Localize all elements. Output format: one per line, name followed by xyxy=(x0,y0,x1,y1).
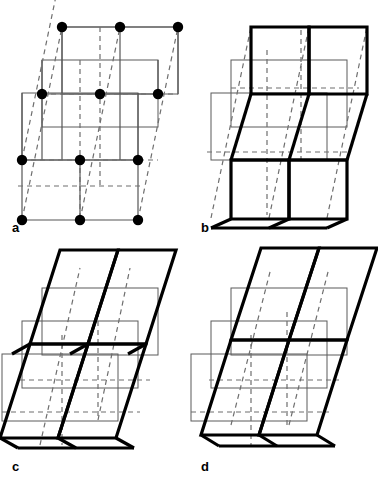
panel-label-a: a xyxy=(12,220,20,235)
lattice-node xyxy=(133,215,143,225)
lattice-node xyxy=(37,89,47,99)
figure-root: a xyxy=(0,0,378,479)
lattice-node xyxy=(17,155,27,165)
lattice-node xyxy=(75,155,85,165)
panel-label-d: d xyxy=(201,459,209,474)
panel-label-b: b xyxy=(201,220,209,235)
lattice-node xyxy=(133,155,143,165)
lattice-node xyxy=(153,89,163,99)
lattice-node xyxy=(115,22,125,32)
lattice-node xyxy=(173,22,183,32)
lattice-node xyxy=(95,89,105,99)
lattice-node xyxy=(75,215,85,225)
lattice-figure-svg: a xyxy=(0,0,378,479)
panel-label-c: c xyxy=(12,459,19,474)
figure-background xyxy=(0,0,378,479)
lattice-node xyxy=(57,22,67,32)
